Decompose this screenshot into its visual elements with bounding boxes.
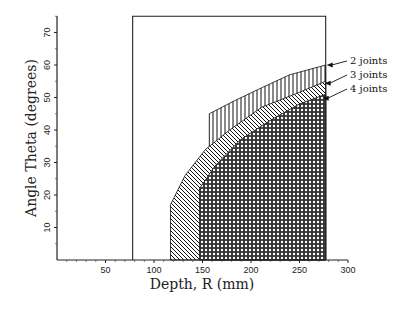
x-tick-label: 200: [243, 265, 258, 275]
y-tick-label: 20: [42, 190, 52, 200]
y-tick-label: 50: [42, 92, 52, 102]
legend-item-2-joints: 2 joints: [350, 55, 387, 66]
x-tick-label: 100: [146, 265, 161, 275]
x-tick-label: 150: [195, 265, 210, 275]
y-tick-label: 70: [42, 27, 52, 37]
x-ticks: 50100150200250300: [67, 260, 356, 275]
chart: 50100150200250300 10203040506070 Depth, …: [0, 0, 405, 310]
legend: 2 joints3 joints4 joints: [323, 55, 388, 101]
y-tick-label: 10: [42, 222, 52, 232]
y-ticks: 10203040506070: [42, 16, 57, 244]
arrow-icon: [327, 63, 333, 68]
y-tick-label: 60: [42, 60, 52, 70]
y-tick-label: 30: [42, 157, 52, 167]
legend-item-3-joints: 3 joints: [350, 69, 387, 80]
x-tick-label: 300: [340, 265, 355, 275]
x-tick-label: 250: [292, 265, 307, 275]
x-axis-title: Depth, R (mm): [150, 276, 254, 292]
legend-item-4-joints: 4 joints: [350, 83, 387, 94]
y-axis-title: Angle Theta (degrees): [23, 59, 39, 218]
y-tick-label: 40: [42, 125, 52, 135]
x-tick-label: 50: [100, 265, 110, 275]
regions: [170, 65, 325, 260]
